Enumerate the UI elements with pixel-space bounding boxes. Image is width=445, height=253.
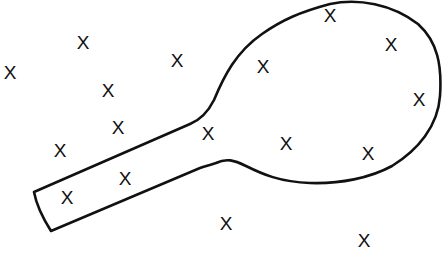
racket-outline bbox=[34, 2, 440, 231]
x-mark: X bbox=[358, 231, 371, 250]
x-mark: X bbox=[54, 141, 67, 160]
x-mark: X bbox=[220, 214, 233, 233]
x-mark: X bbox=[413, 90, 426, 109]
x-mark: X bbox=[112, 118, 125, 137]
x-mark: X bbox=[324, 6, 337, 25]
x-mark: X bbox=[119, 169, 132, 188]
x-mark: X bbox=[257, 57, 270, 76]
x-mark: X bbox=[385, 35, 398, 54]
x-mark: X bbox=[61, 188, 74, 207]
x-mark: X bbox=[280, 134, 293, 153]
x-mark: X bbox=[102, 81, 115, 100]
x-mark: X bbox=[362, 144, 375, 163]
x-mark: X bbox=[4, 63, 17, 82]
x-mark: X bbox=[171, 51, 184, 70]
x-mark: X bbox=[202, 124, 215, 143]
x-mark: X bbox=[77, 33, 90, 52]
